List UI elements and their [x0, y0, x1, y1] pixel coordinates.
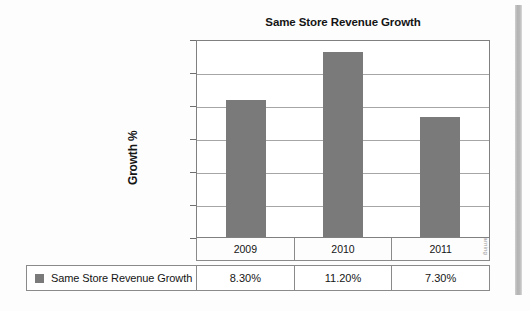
plot-area — [196, 40, 490, 238]
legend-value-table: Same Store Revenue Growth 8.30%11.20%7.3… — [26, 265, 490, 291]
bar[interactable] — [420, 117, 460, 237]
legend-label: Same Store Revenue Growth — [51, 272, 192, 284]
value-cell: 11.20% — [295, 266, 393, 290]
bar-series — [197, 41, 489, 237]
value-cell: 8.30% — [197, 266, 295, 290]
bar-slot — [294, 41, 391, 237]
bar[interactable] — [226, 100, 266, 237]
bar-slot — [392, 41, 489, 237]
bar-chart: Same Store Revenue Growth Growth % 0.00%… — [0, 0, 510, 311]
y-axis-label: Growth % — [126, 131, 140, 185]
chart-title: Same Store Revenue Growth — [196, 16, 490, 28]
category-header-cell: 2010 — [295, 238, 393, 260]
category-header-cell: 2009 — [197, 238, 295, 260]
value-cell: 7.30% — [392, 266, 489, 290]
bar-slot — [197, 41, 294, 237]
bar[interactable] — [323, 52, 363, 237]
category-header-cell: 2011 — [392, 238, 489, 260]
category-header-row: 200920102011 — [196, 238, 490, 261]
legend-entry: Same Store Revenue Growth — [27, 266, 197, 290]
page-edge-scan-strip — [515, 5, 522, 295]
legend-swatch-icon — [35, 274, 44, 283]
